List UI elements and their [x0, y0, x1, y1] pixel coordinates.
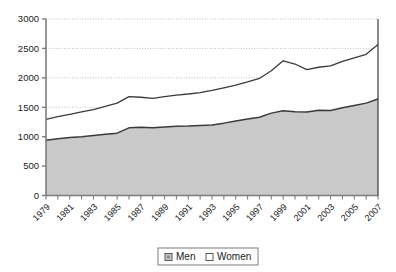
stacked-area-chart: 050010001500200025003000 197919811983198… [0, 0, 396, 272]
x-tick-label: 1979 [31, 202, 52, 223]
y-tick-labels: 050010001500200025003000 [18, 13, 39, 201]
legend-women-swatch [206, 254, 213, 261]
chart-legend: MenWomen [158, 248, 258, 265]
x-tick-label: 2001 [292, 202, 313, 223]
x-tick-label: 1993 [197, 202, 218, 223]
x-tick-label: 1985 [102, 202, 123, 223]
x-tick-label: 1983 [78, 202, 99, 223]
x-tick-label: 1991 [173, 202, 194, 223]
y-tick-label: 0 [34, 190, 39, 201]
y-tick-label: 1000 [18, 131, 39, 142]
x-tick-label: 2007 [363, 202, 384, 223]
x-tick-label: 2005 [339, 202, 360, 223]
y-tick-label: 3000 [18, 13, 39, 24]
legend-men-swatch-inner [167, 256, 170, 259]
y-tick-label: 500 [23, 160, 39, 171]
x-tick-label: 1989 [149, 202, 170, 223]
x-tick-label: 1999 [268, 202, 289, 223]
y-tick-label: 2000 [18, 72, 39, 83]
x-tick-label: 1981 [54, 202, 75, 223]
y-tick-label: 1500 [18, 102, 39, 113]
x-tick-label: 1987 [126, 202, 147, 223]
x-tick-label: 1997 [244, 202, 265, 223]
x-tick-labels: 1979198119831985198719891991199319951997… [31, 202, 384, 223]
y-tick-label: 2500 [18, 43, 39, 54]
legend-label: Women [217, 251, 251, 262]
x-tick-label: 1995 [220, 202, 241, 223]
legend-label: Men [176, 251, 195, 262]
x-tick-label: 2003 [315, 202, 336, 223]
chart-canvas: 050010001500200025003000 197919811983198… [0, 0, 396, 272]
